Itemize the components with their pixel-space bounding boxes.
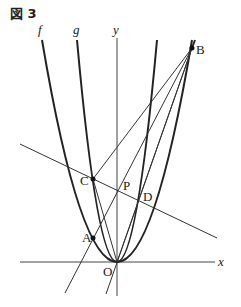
label-g: g bbox=[73, 22, 80, 37]
point-c bbox=[91, 177, 96, 182]
label-a: A bbox=[82, 230, 92, 245]
label-p: P bbox=[123, 178, 130, 193]
line-co bbox=[93, 179, 117, 262]
line-cd bbox=[20, 144, 217, 238]
line-bd-o bbox=[117, 48, 192, 262]
label-origin: O bbox=[103, 264, 112, 279]
point-b bbox=[190, 46, 195, 51]
label-d: D bbox=[143, 189, 152, 204]
line-bc bbox=[93, 48, 192, 179]
diagram-canvas: f g y x O A B C D P bbox=[0, 0, 241, 307]
label-y: y bbox=[111, 22, 119, 37]
label-f: f bbox=[38, 22, 44, 37]
label-c: C bbox=[80, 173, 89, 188]
label-x: x bbox=[217, 254, 224, 269]
label-b: B bbox=[196, 42, 205, 57]
